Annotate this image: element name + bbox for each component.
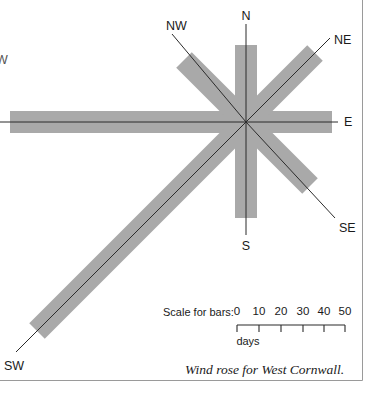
compass-label-ne: NE — [334, 33, 351, 47]
compass-label-w: W — [0, 53, 8, 67]
scale-title: Scale for bars: — [163, 306, 234, 318]
compass-label-nw: NW — [166, 19, 187, 33]
figure-caption: Wind rose for West Cornwall. — [185, 362, 344, 377]
scale-tick-label-3: 30 — [297, 305, 310, 317]
wind-rose-svg: N NE E SE S SW W NW Scale for bars: 0 10… — [0, 0, 376, 398]
scale-tick-label-1: 10 — [253, 305, 266, 317]
compass-label-se: SE — [339, 221, 356, 235]
scale-unit-label: days — [236, 335, 260, 347]
scale-tick-label-0: 0 — [234, 305, 240, 317]
compass-label-sw: SW — [4, 359, 24, 373]
scale-tick-label-4: 40 — [318, 305, 331, 317]
scale-tick-label-2: 20 — [275, 305, 288, 317]
compass-label-e: E — [344, 115, 352, 129]
scale-tick-label-5: 50 — [339, 305, 352, 317]
wind-rose-figure: N NE E SE S SW W NW Scale for bars: 0 10… — [0, 0, 376, 398]
compass-label-n: N — [241, 9, 250, 23]
compass-label-s: S — [242, 239, 250, 253]
